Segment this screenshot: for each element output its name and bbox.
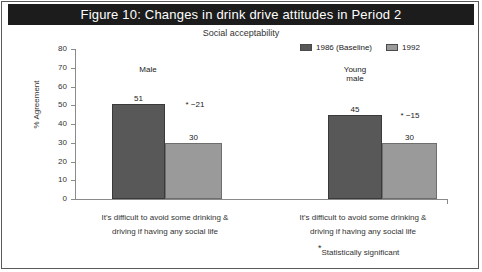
y-tick-label-20: 20 <box>45 158 67 166</box>
y-tick-label-0: 0 <box>45 195 67 203</box>
footnote: *Statistically significant <box>318 248 399 257</box>
chart-figure: Figure 10: Changes in drink drive attitu… <box>0 0 482 272</box>
tick-mark-10 <box>71 180 75 181</box>
tick-mark-30 <box>71 143 75 144</box>
category-label-group2-line2: driving if having any social life <box>258 226 468 238</box>
bar-value-male-1992: 30 <box>165 133 222 142</box>
delta-label-male: * −21 <box>168 100 222 109</box>
group-label-male-line1: Male <box>118 65 178 74</box>
y-tick-label-10: 10 <box>45 176 67 184</box>
bar-value-male-1986: 51 <box>112 94 165 103</box>
y-tick-label-50: 50 <box>45 101 67 109</box>
tick-mark-20 <box>71 162 75 163</box>
tick-mark-40 <box>71 124 75 125</box>
y-tick-label-60: 60 <box>45 83 67 91</box>
bar-male-1986[interactable] <box>112 104 165 199</box>
group-label-youngmale-line1: Young <box>328 65 382 74</box>
tick-mark-60 <box>71 87 75 88</box>
tick-mark-50 <box>71 105 75 106</box>
category-label-group1-line2: driving if having any social life <box>60 226 270 238</box>
tick-mark-80 <box>71 49 75 50</box>
delta-label-youngmale: * −15 <box>383 111 437 120</box>
bar-youngmale-1986[interactable] <box>328 115 382 199</box>
category-label-group2-line1: It's difficult to avoid some drinking & <box>258 212 468 224</box>
bar-value-youngmale-1986: 45 <box>328 105 382 114</box>
y-tick-label-80: 80 <box>45 45 67 53</box>
group-label-youngmale-line2: male <box>328 74 382 83</box>
category-label-group1-line1: It's difficult to avoid some drinking & <box>60 212 270 224</box>
bar-youngmale-1992[interactable] <box>382 143 437 199</box>
y-axis-title: % Agreement <box>32 60 41 150</box>
tick-mark-0 <box>71 199 75 200</box>
y-tick-label-40: 40 <box>45 120 67 128</box>
y-tick-label-70: 70 <box>45 64 67 72</box>
bar-value-youngmale-1992: 30 <box>382 133 437 142</box>
y-tick-label-30: 30 <box>45 139 67 147</box>
tick-mark-70 <box>71 68 75 69</box>
footnote-text: Statistically significant <box>322 248 400 257</box>
bar-male-1992[interactable] <box>165 143 222 199</box>
